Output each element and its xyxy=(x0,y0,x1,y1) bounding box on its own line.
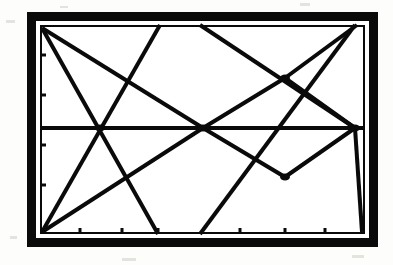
scan-speck xyxy=(60,6,68,8)
node-upper-right-crossing xyxy=(280,75,290,82)
scan-speck xyxy=(10,236,17,239)
node-right-apex xyxy=(350,125,360,132)
node-left-crossing xyxy=(95,125,105,132)
scan-speck xyxy=(300,3,310,6)
node-lower-right-crossing xyxy=(280,174,290,181)
geometric-line-diagram xyxy=(0,0,393,265)
figure-root xyxy=(0,0,393,265)
node-center-crossing xyxy=(198,125,208,132)
scan-speck xyxy=(122,258,136,261)
scan-speck xyxy=(6,20,15,23)
scan-speck xyxy=(352,255,364,258)
